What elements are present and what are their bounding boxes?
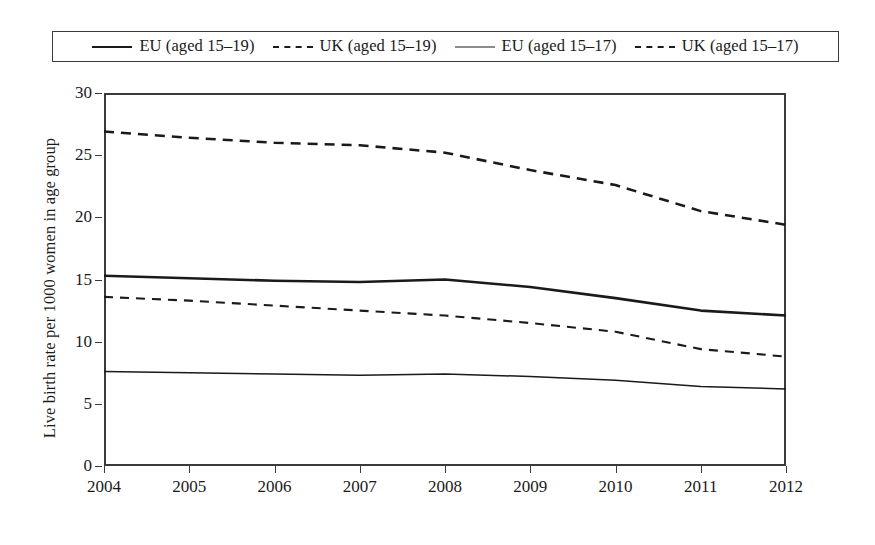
x-tick-label: 2012 [751,478,821,495]
legend-label: EU (aged 15–19) [139,38,254,55]
legend-label: UK (aged 15–17) [682,38,799,55]
y-tick-label: 10 [48,333,92,350]
x-tick-mark [445,466,446,473]
x-tick-label: 2004 [69,478,139,495]
x-tick-mark [104,466,105,473]
y-tick-label: 0 [48,457,92,474]
x-tick-label: 2006 [240,478,310,495]
legend-line-swatch-icon [455,42,495,52]
data-series-line-2 [104,132,786,225]
data-series-line-3 [104,372,786,389]
data-series-svg [104,93,786,466]
x-tick-mark [530,466,531,473]
x-tick-mark [275,466,276,473]
y-tick-label: 25 [48,146,92,163]
data-series-line-4 [104,297,786,357]
x-tick-mark [189,466,190,473]
x-tick-mark [786,466,787,473]
y-tick-label: 15 [48,271,92,288]
legend-entry-1[interactable]: EU (aged 15–19) [92,38,254,55]
chart-legend: EU (aged 15–19)UK (aged 15–19)EU (aged 1… [52,31,839,62]
legend-entry-2[interactable]: UK (aged 15–19) [273,38,437,55]
y-tick-mark [95,155,102,156]
legend-line-swatch-icon [92,42,132,52]
legend-line-swatch-icon [273,42,313,52]
y-axis-tick-labels: 051015202530 [46,93,92,466]
legend-line-swatch-icon [635,42,675,52]
x-tick-mark [360,466,361,473]
x-tick-label: 2005 [154,478,224,495]
y-tick-mark [95,217,102,218]
y-tick-mark [95,466,102,467]
x-axis-tick-labels: 200420052006200720082009201020112012 [104,474,786,504]
x-tick-label: 2010 [581,478,651,495]
legend-entry-3[interactable]: EU (aged 15–17) [455,38,617,55]
y-tick-mark [95,280,102,281]
data-series-line-1 [104,276,786,316]
y-tick-mark [95,342,102,343]
x-tick-mark [616,466,617,473]
line-chart-figure: EU (aged 15–19)UK (aged 15–19)EU (aged 1… [0,0,875,545]
x-tick-mark [701,466,702,473]
legend-label: EU (aged 15–17) [502,38,617,55]
y-tick-label: 5 [48,395,92,412]
x-tick-label: 2011 [666,478,736,495]
legend-label: UK (aged 15–19) [320,38,437,55]
plot-area [104,93,786,466]
x-tick-label: 2009 [495,478,565,495]
y-tick-mark [95,404,102,405]
x-tick-label: 2007 [325,478,395,495]
legend-entry-4[interactable]: UK (aged 15–17) [635,38,799,55]
y-tick-label: 20 [48,208,92,225]
y-tick-mark [95,93,102,94]
x-tick-label: 2008 [410,478,480,495]
y-tick-label: 30 [48,84,92,101]
